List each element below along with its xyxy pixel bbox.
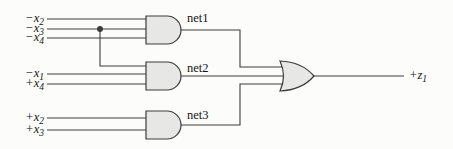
net2-label: net2 bbox=[187, 61, 209, 75]
gates bbox=[146, 16, 314, 139]
circuit-canvas: −x2 −x3 −x4 −x1 +x4 +x2 +x3 net1 net2 ne… bbox=[0, 0, 453, 149]
output-label-pos-z1: +z1 bbox=[409, 68, 427, 84]
and-gate-net1 bbox=[146, 16, 181, 44]
gates-stroke-group bbox=[146, 16, 314, 139]
logic-circuit-diagram: −x2 −x3 −x4 −x1 +x4 +x2 +x3 net1 net2 ne… bbox=[0, 0, 453, 149]
wires bbox=[47, 19, 404, 130]
and-gate-net3 bbox=[146, 111, 181, 139]
net3-label: net3 bbox=[187, 108, 209, 122]
wire-branch-from-junction bbox=[100, 29, 146, 66]
and-gate-net2 bbox=[146, 62, 181, 90]
junction-dot bbox=[97, 26, 103, 32]
or-gate-output bbox=[280, 61, 314, 91]
net1-label: net1 bbox=[187, 11, 209, 25]
